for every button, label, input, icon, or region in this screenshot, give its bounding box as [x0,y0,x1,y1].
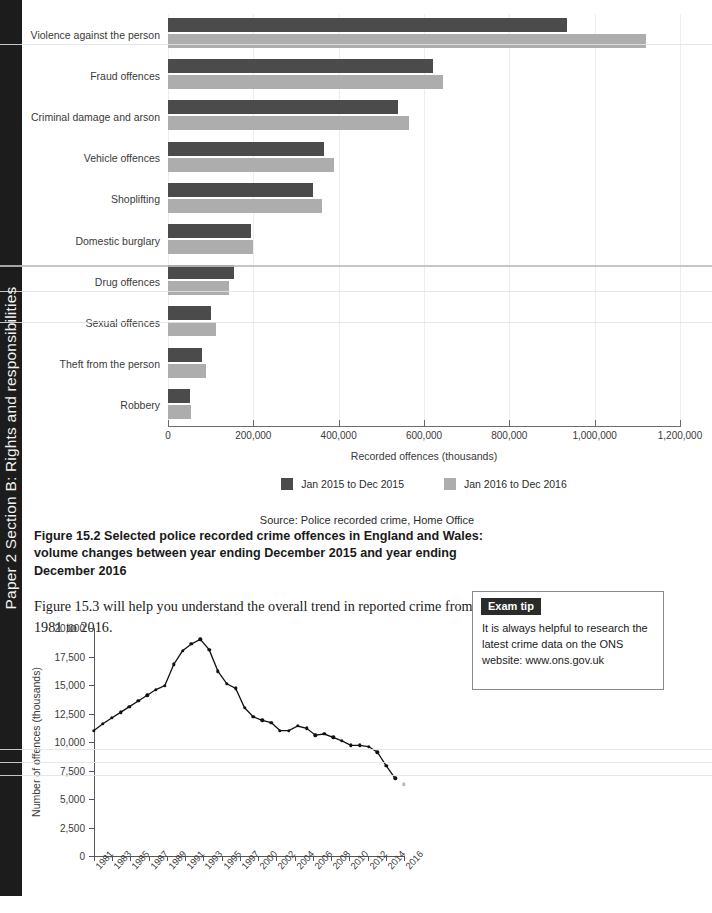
bar-chart-category-row: Domestic burglary [168,220,680,261]
axis-tick [509,420,510,427]
axis-tick-label: 2016 [403,848,425,871]
axis-tick [680,420,681,427]
bar-segment [168,240,253,254]
bar-category-label: Fraud offences [90,70,160,82]
gridline [680,14,681,426]
axis-tick-label: 1,000,000 [572,430,617,441]
bar-segment [168,116,409,130]
running-head-text: Paper 2 Section B: Rights and responsibi… [2,287,20,610]
bar-segment [168,59,433,73]
bar-category-label: Criminal damage and arson [31,111,160,123]
axis-tick-label: 600,000 [406,430,442,441]
bar-category-label: Sexual offences [85,317,160,329]
bar-segment [168,199,322,213]
axis-tick-label: 7,500 [60,765,85,776]
axis-tick-label: 800,000 [491,430,527,441]
bar-category-label: Domestic burglary [75,235,160,247]
legend-swatch [281,478,293,490]
bar-segment [168,364,206,378]
bar-chart-plot-area: Violence against the personFraud offence… [168,14,680,426]
axis-tick [368,856,369,861]
bar-segment [168,18,567,32]
bar-category-label: Shoplifting [111,193,160,205]
bar-segment [168,183,313,197]
bar-category-label: Theft from the person [60,358,160,370]
axis-tick-label: 20,000 [54,623,85,634]
bar-category-label: Robbery [120,399,160,411]
bar-chart-x-axis-labels: 0200,000400,000600,000800,0001,000,0001,… [168,430,680,446]
bar-chart-category-row: Vehicle offences [168,138,680,179]
bar-chart-category-row: Violence against the person [168,14,680,55]
bar-segment [168,348,202,362]
bar-chart-category-row: Shoplifting [168,179,680,220]
bar-chart-category-row: Theft from the person [168,344,680,385]
legend-label: Jan 2015 to Dec 2015 [301,478,404,490]
axis-tick [295,856,296,861]
axis-tick [168,420,169,427]
axis-tick-label: 12,500 [54,708,85,719]
axis-tick-label: 17,500 [54,651,85,662]
axis-tick-label: 10,000 [54,737,85,748]
bar-segment [168,306,211,320]
axis-tick-label: 0 [79,851,85,862]
bar-segment [168,265,234,279]
axis-tick-label: 400,000 [321,430,357,441]
bar-chart-category-row: Sexual offences [168,302,680,343]
page-content: Violence against the personFraud offence… [22,0,712,913]
legend-item: Jan 2016 to Dec 2016 [444,478,567,490]
axis-tick-label: 1,200,000 [658,430,703,441]
axis-tick [339,420,340,427]
axis-tick [424,420,425,427]
bar-segment [168,158,334,172]
bar-segment [168,142,324,156]
legend-item: Jan 2015 to Dec 2015 [281,478,404,490]
line-chart-y-axis-title: Number of offences (thousands) [30,667,42,817]
line-data-point [402,782,405,785]
bar-chart-category-row: Drug offences [168,261,680,302]
axis-tick-label: 0 [165,430,171,441]
figure-15-3-line-chart: Number of offences (thousands) 02,5005,0… [22,600,712,913]
line-chart-plot-area: 02,5005,0007,50010,00012,50015,00017,500… [94,628,404,856]
bar-segment [168,100,398,114]
axis-tick-label: 5,000 [60,794,85,805]
bar-segment [168,34,646,48]
axis-tick-label: 200,000 [235,430,271,441]
bar-segment [168,322,216,336]
bar-segment [168,224,251,238]
bar-segment [168,75,443,89]
legend-swatch [444,478,456,490]
bar-chart-x-axis-ticks [168,420,680,428]
bar-category-label: Vehicle offences [84,152,160,164]
axis-tick-label: 2,500 [60,822,85,833]
bar-chart-x-axis-title: Recorded offences (thousands) [168,450,680,462]
axis-tick-label: 15,000 [54,680,85,691]
figure-15-2-caption: Figure 15.2 Selected police recorded cri… [34,528,489,580]
bar-category-label: Drug offences [95,276,160,288]
bar-segment [168,281,229,295]
legend-label: Jan 2016 to Dec 2016 [464,478,567,490]
bar-chart-source: Source: Police recorded crime, Home Offi… [22,514,712,526]
figure-15-2-bar-chart: Violence against the personFraud offence… [22,6,712,526]
bar-segment [168,405,191,419]
axis-tick [253,420,254,427]
line-chart-series-path [94,628,404,856]
bar-chart-category-row: Fraud offences [168,55,680,96]
axis-tick [595,420,596,427]
bar-segment [168,389,190,403]
bar-chart-category-row: Criminal damage and arson [168,96,680,137]
running-head-side-tab: Paper 2 Section B: Rights and responsibi… [0,0,22,896]
bar-chart-legend: Jan 2015 to Dec 2015Jan 2016 to Dec 2016 [168,478,680,490]
bar-category-label: Violence against the person [31,29,160,41]
